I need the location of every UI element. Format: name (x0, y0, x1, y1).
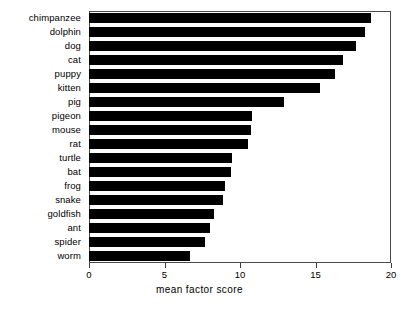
category-label: kitten (58, 83, 81, 93)
x-axis-tick-label: 5 (150, 269, 180, 280)
category-label: goldfish (47, 209, 81, 219)
bar (89, 69, 335, 78)
category-label: dog (65, 41, 81, 51)
x-axis-tick-label: 15 (301, 269, 331, 280)
bar (89, 55, 343, 64)
category-label: bat (67, 167, 81, 177)
bar (89, 153, 232, 162)
bar (89, 167, 231, 176)
bar (89, 223, 210, 232)
category-label: rat (70, 139, 81, 149)
x-axis-tick (89, 263, 90, 268)
category-label: snake (55, 195, 81, 205)
x-axis-title-text: mean factor score (156, 284, 243, 295)
bar (89, 41, 356, 50)
x-axis-tick (240, 263, 241, 268)
category-label: turtle (59, 153, 81, 163)
bar (89, 195, 223, 204)
bar (89, 139, 248, 148)
bar (89, 13, 371, 22)
bar (89, 111, 252, 120)
bar (89, 27, 365, 36)
bar (89, 251, 190, 260)
x-axis-title: mean factor score (0, 284, 415, 295)
x-axis-tick (316, 263, 317, 268)
category-label: frog (64, 181, 81, 191)
x-axis-tick-label: 10 (225, 269, 255, 280)
category-axis-labels: chimpanzeedolphindogcatpuppykittenpigpig… (0, 11, 85, 263)
x-axis-tick (165, 263, 166, 268)
bar (89, 181, 225, 190)
bar (89, 97, 284, 106)
x-axis-tick (391, 263, 392, 268)
bar (89, 83, 320, 92)
category-label: ant (67, 223, 81, 233)
x-axis-tick-label: 20 (376, 269, 406, 280)
category-label: worm (57, 251, 81, 261)
bar (89, 125, 251, 134)
category-label: chimpanzee (29, 13, 81, 23)
category-label: spider (55, 237, 81, 247)
category-label: puppy (55, 69, 81, 79)
bar (89, 237, 205, 246)
value-axis: mean factor score 05101520 (0, 263, 415, 312)
category-label: cat (68, 55, 81, 65)
bar (89, 209, 214, 218)
category-label: pig (68, 97, 81, 107)
category-label: dolphin (50, 27, 81, 37)
bars-container (89, 11, 391, 263)
bar-chart: chimpanzeedolphindogcatpuppykittenpigpig… (0, 0, 415, 312)
category-label: pigeon (52, 111, 81, 121)
category-label: mouse (52, 125, 81, 135)
x-axis-tick-label: 0 (74, 269, 104, 280)
